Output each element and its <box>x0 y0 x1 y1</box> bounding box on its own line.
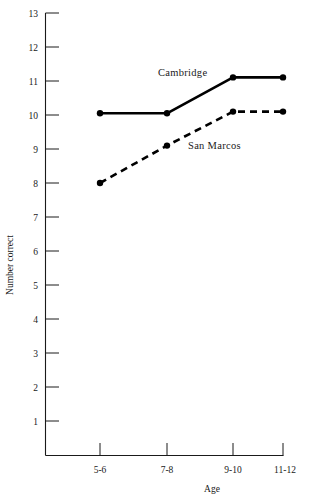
y-axis-title: Number correct <box>5 235 15 295</box>
y-tick-label-6: 6 <box>33 247 38 257</box>
series-cambridge <box>97 74 286 116</box>
y-tick-label-12: 12 <box>29 43 39 53</box>
y-tick-marks <box>46 13 60 421</box>
line-chart: 13 12 11 10 9 8 7 6 5 4 3 2 1 5-6 7-8 9-… <box>0 0 315 501</box>
series-label-san-marcos: San Marcos <box>188 140 241 151</box>
series-cambridge-point-3 <box>280 74 286 80</box>
y-tick-label-13: 13 <box>29 9 39 19</box>
series-cambridge-point-0 <box>97 110 103 116</box>
x-tick-label-9-10: 9-10 <box>224 465 242 475</box>
series-san-marcos-point-0 <box>97 180 103 186</box>
x-tick-label-11-12: 11-12 <box>274 465 296 475</box>
y-tick-label-5: 5 <box>33 281 38 291</box>
x-tick-marks <box>100 443 283 456</box>
y-tick-label-9: 9 <box>33 145 38 155</box>
series-cambridge-point-1 <box>164 110 170 116</box>
series-cambridge-line <box>100 77 283 113</box>
y-tick-label-8: 8 <box>33 179 38 189</box>
x-axis-title: Age <box>204 484 220 494</box>
y-tick-label-1: 1 <box>33 417 38 427</box>
series-san-marcos-point-3 <box>280 108 286 114</box>
y-tick-label-2: 2 <box>33 383 38 393</box>
y-tick-labels: 13 12 11 10 9 8 7 6 5 4 3 2 1 <box>29 9 39 427</box>
series-san-marcos-point-1 <box>164 142 170 148</box>
y-tick-label-7: 7 <box>33 213 38 223</box>
y-tick-label-4: 4 <box>33 315 38 325</box>
y-tick-label-11: 11 <box>29 77 38 87</box>
x-tick-labels: 5-6 7-8 9-10 11-12 <box>94 465 296 475</box>
axes-group <box>46 13 284 456</box>
series-label-cambridge: Cambridge <box>158 67 207 78</box>
x-tick-label-7-8: 7-8 <box>161 465 174 475</box>
y-tick-label-3: 3 <box>33 349 38 359</box>
series-cambridge-point-2 <box>230 74 236 80</box>
x-tick-label-5-6: 5-6 <box>94 465 107 475</box>
series-san-marcos-point-2 <box>230 108 236 114</box>
chart-canvas: 13 12 11 10 9 8 7 6 5 4 3 2 1 5-6 7-8 9-… <box>0 0 315 501</box>
y-tick-label-10: 10 <box>29 111 39 121</box>
